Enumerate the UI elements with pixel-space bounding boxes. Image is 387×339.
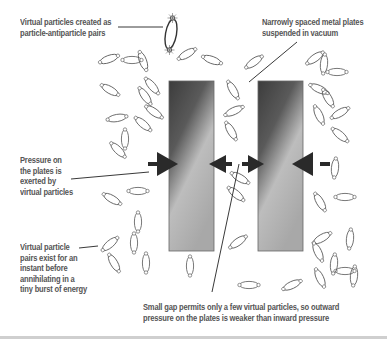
particle-pair — [132, 114, 154, 134]
label-metal-plates: Narrowly spaced metal plates suspended i… — [262, 17, 363, 38]
virtual-particles — [97, 45, 358, 293]
particle-pair — [307, 81, 330, 97]
particle-pair — [225, 184, 247, 204]
metal-plate-left — [169, 81, 214, 251]
particle-pair — [105, 252, 122, 275]
particle-pair — [319, 87, 336, 110]
particle-pair — [304, 49, 326, 68]
particle-pair — [224, 79, 241, 102]
particle-pair — [222, 120, 239, 143]
particle-pair — [134, 211, 141, 233]
leader-small-gap — [212, 164, 239, 292]
particle-pair — [345, 228, 354, 251]
label-virtual-pairs-created: Virtual particles created as particle-an… — [20, 17, 111, 38]
particle-pair — [238, 281, 260, 288]
particle-pair — [243, 53, 265, 72]
particle-pair — [121, 128, 128, 150]
particle-pair — [99, 234, 121, 254]
particle-pair — [142, 75, 162, 97]
label-pairs-exist: Virtual particle pairs exist for an inst… — [20, 242, 87, 295]
particle-pair — [130, 232, 137, 254]
particle-pair — [101, 190, 124, 207]
leader-pressure — [71, 172, 149, 179]
particle-pair — [326, 68, 348, 75]
particle-pair — [200, 53, 224, 67]
particle-pair — [329, 125, 351, 145]
particle-pair — [312, 266, 328, 289]
energy-burst-icon — [165, 13, 178, 55]
particle-pair — [222, 103, 245, 119]
particle-pair — [330, 157, 339, 180]
particle-pair — [136, 85, 155, 107]
particle-pair — [311, 191, 328, 214]
particle-pair — [334, 193, 356, 200]
particle-pair — [97, 52, 121, 66]
particle-pair — [105, 113, 128, 124]
particle-pair — [280, 277, 303, 293]
particle-pair — [311, 103, 327, 126]
particle-pair — [127, 187, 149, 194]
label-pressure: Pressure on the plates is exerted by vir… — [20, 155, 73, 197]
particle-pair — [186, 255, 193, 277]
particle-pair — [99, 81, 122, 98]
particle-pair — [143, 103, 165, 122]
featured-particle-pair — [163, 13, 179, 55]
particle-pair — [176, 45, 199, 62]
label-small-gap: Small gap permits only a few virtual par… — [143, 302, 339, 323]
particle-pair — [227, 233, 249, 252]
particle-pair — [142, 252, 149, 274]
leader-metal-plates — [249, 42, 297, 82]
